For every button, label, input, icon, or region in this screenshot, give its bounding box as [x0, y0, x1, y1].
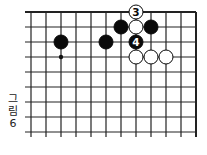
stones: 34 — [54, 5, 173, 64]
black-stone — [99, 35, 113, 49]
white-stone — [129, 20, 143, 34]
board-grid — [25, 12, 196, 137]
go-board-diagram: 34 — [0, 0, 207, 155]
black-stone: 4 — [129, 35, 143, 49]
figure-caption: 그 림 6 — [5, 94, 21, 130]
black-stone — [144, 20, 158, 34]
caption-number: 6 — [5, 118, 21, 130]
white-stone — [129, 50, 143, 64]
white-stone — [144, 50, 158, 64]
move-number: 4 — [132, 36, 139, 48]
black-stone — [114, 20, 128, 34]
white-stone — [159, 50, 173, 64]
move-number: 3 — [132, 6, 139, 18]
white-stone: 3 — [129, 5, 143, 19]
star-points — [59, 55, 63, 59]
black-stone — [54, 35, 68, 49]
hoshi-point — [59, 55, 63, 59]
